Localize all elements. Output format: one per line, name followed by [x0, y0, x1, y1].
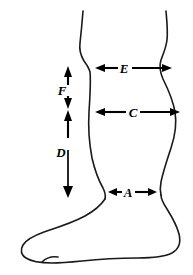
dimension-E-label: E [119, 61, 129, 76]
dimension-A: A [108, 185, 157, 200]
sole-arch-detail [42, 257, 58, 262]
foot-contour [21, 195, 179, 263]
leg-measurement-figure: E C A F [0, 0, 193, 275]
dimension-D-label: D [55, 145, 66, 160]
anterior-leg-contour [80, 11, 106, 199]
dimension-F-arrowhead-bottom [64, 98, 72, 109]
dimension-D-arrowhead-bottom [63, 186, 73, 198]
dimension-D: D [55, 110, 73, 198]
dimension-E-arrowhead-right [162, 64, 172, 72]
dimension-F: F [57, 66, 72, 109]
dimension-C-label: C [129, 105, 138, 120]
figure-canvas: E C A F [0, 0, 193, 275]
dimension-E-arrowhead-left [95, 64, 105, 72]
dimension-D-arrowhead-top [64, 110, 72, 121]
dimension-A-arrowhead-right [148, 188, 157, 196]
dimension-C: C [95, 105, 180, 120]
dimension-F-arrowhead-top [64, 66, 72, 77]
dimension-F-label: F [57, 83, 67, 98]
dimension-A-arrowhead-left [108, 188, 117, 196]
posterior-leg-contour [160, 11, 176, 195]
dimension-C-arrowhead-left [95, 108, 105, 116]
dimension-A-label: A [123, 185, 133, 200]
